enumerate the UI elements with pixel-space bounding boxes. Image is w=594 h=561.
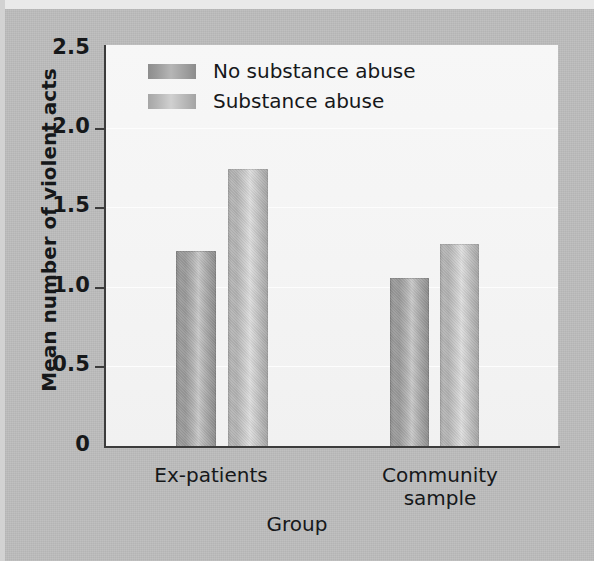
legend-item-no-substance-abuse: No substance abuse <box>148 56 416 86</box>
y-tick-label-0: 0 <box>24 432 90 456</box>
y-tick-label-2.5: 2.5 <box>24 35 90 59</box>
page-left-edge <box>0 0 5 561</box>
x-axis-line <box>104 446 560 448</box>
gridline-1.5 <box>106 207 558 208</box>
gridline-2.0 <box>106 128 558 129</box>
x-axis-title: Group <box>0 512 594 536</box>
legend-item-substance-abuse: Substance abuse <box>148 86 416 116</box>
bar-community-sample-no-substance-abuse <box>390 278 429 447</box>
x-tick-label-community-sample-line1: Community <box>345 464 535 487</box>
bar-texture <box>176 251 216 447</box>
y-axis-line <box>104 45 106 448</box>
bar-ex-patients-no-substance-abuse <box>176 251 216 447</box>
y-tick-label-0.5: 0.5 <box>24 352 90 376</box>
page-top-edge <box>0 0 594 9</box>
legend-label-no-substance-abuse: No substance abuse <box>213 59 416 83</box>
plot-area: No substance abuse Substance abuse <box>106 45 558 447</box>
legend-swatch-no-substance-abuse <box>148 64 196 79</box>
bar-ex-patients-substance-abuse <box>228 169 268 447</box>
x-tick-label-community-sample-line2: sample <box>345 487 535 510</box>
legend: No substance abuse Substance abuse <box>148 56 416 116</box>
legend-swatch-substance-abuse <box>148 94 196 109</box>
gridline-1.0 <box>106 287 558 288</box>
legend-label-substance-abuse: Substance abuse <box>213 89 384 113</box>
bar-texture <box>390 278 429 447</box>
bar-texture <box>440 244 479 447</box>
x-tick-label-community-sample: Community sample <box>345 464 535 511</box>
gridline-0.5 <box>106 366 558 367</box>
y-tick-label-1.5: 1.5 <box>24 193 90 217</box>
x-tick-label-ex-patients: Ex-patients <box>116 464 306 487</box>
y-tick-label-2.0: 2.0 <box>24 114 90 138</box>
chart-figure: Mean number of violent acts 2.5 2.0 1.5 … <box>0 0 594 561</box>
y-tick-label-1.0: 1.0 <box>24 273 90 297</box>
bar-texture <box>228 169 268 447</box>
x-tick-label-ex-patients-line1: Ex-patients <box>116 464 306 487</box>
bar-community-sample-substance-abuse <box>440 244 479 447</box>
